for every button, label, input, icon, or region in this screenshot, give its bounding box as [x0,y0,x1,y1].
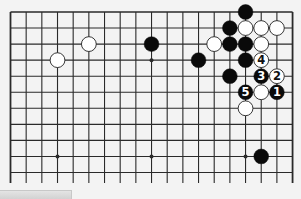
move-number: 3 [257,69,265,83]
white-stone [254,21,269,36]
black-stone-move-5: 5 [238,85,253,100]
move-number: 2 [273,69,281,83]
white-stone [254,37,269,52]
black-stone [191,53,206,68]
white-stone [207,37,222,52]
tab-strip[interactable] [0,190,72,199]
white-stone-move-2: 2 [269,69,284,84]
move-number: 1 [273,85,281,99]
white-stone [81,37,96,52]
black-stone [144,37,159,52]
star-point-icon [56,154,60,158]
star-point-icon [244,154,248,158]
white-stone [254,85,269,100]
go-board[interactable]: 43251 [0,0,301,190]
move-number: 4 [257,53,265,67]
black-stone [222,37,237,52]
black-stone [222,21,237,36]
black-stone [238,5,253,20]
black-stone [238,37,253,52]
star-point-icon [150,154,154,158]
black-stone [222,69,237,84]
star-point-icon [150,58,154,62]
black-stone [238,53,253,68]
black-stone-move-1: 1 [269,85,284,100]
white-stone [269,21,284,36]
white-stone [50,53,65,68]
white-stone [238,101,253,116]
move-number: 5 [242,85,250,99]
black-stone [254,149,269,164]
white-stone [238,21,253,36]
white-stone-move-4: 4 [254,53,269,68]
black-stone-move-3: 3 [254,69,269,84]
